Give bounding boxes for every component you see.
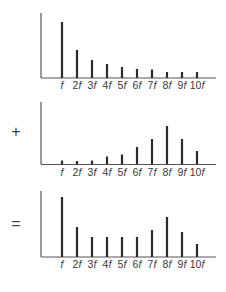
tick-label: 4f bbox=[103, 258, 113, 270]
tick-label: 10f bbox=[190, 258, 206, 270]
tick-label: 3f bbox=[88, 258, 98, 270]
spectrum-panel-1: f2f3f4f5f6f7f8f9f10f bbox=[41, 13, 216, 91]
tick-label: 5f bbox=[118, 79, 128, 91]
tick-label: 9f bbox=[178, 79, 188, 91]
tick-label: 9f bbox=[178, 258, 188, 270]
tick-label: 4f bbox=[103, 79, 113, 91]
tick-label: f bbox=[61, 258, 65, 270]
plus-sign: + bbox=[11, 123, 20, 140]
spectrum-panel-3: f2f3f4f5f6f7f8f9f10f= bbox=[11, 191, 216, 270]
tick-label: 7f bbox=[148, 79, 158, 91]
tick-label: 10f bbox=[190, 79, 206, 91]
tick-label: 5f bbox=[118, 258, 128, 270]
tick-label: f bbox=[61, 166, 65, 178]
tick-label: 6f bbox=[133, 79, 143, 91]
spectrum-panel-2: f2f3f4f5f6f7f8f9f10f+ bbox=[11, 102, 216, 178]
tick-label: 7f bbox=[148, 166, 158, 178]
tick-label: 7f bbox=[148, 258, 158, 270]
tick-label: 8f bbox=[163, 258, 173, 270]
tick-label: 6f bbox=[133, 258, 143, 270]
tick-label: 4f bbox=[103, 166, 113, 178]
tick-label: 5f bbox=[118, 166, 128, 178]
tick-label: 3f bbox=[88, 166, 98, 178]
tick-label: 2f bbox=[73, 79, 83, 91]
tick-label: 10f bbox=[190, 166, 206, 178]
tick-label: 3f bbox=[88, 79, 98, 91]
tick-label: 2f bbox=[73, 166, 83, 178]
tick-label: 6f bbox=[133, 166, 143, 178]
tick-label: 8f bbox=[163, 79, 173, 91]
tick-label: f bbox=[61, 79, 65, 91]
harmonic-spectrum-diagram: f2f3f4f5f6f7f8f9f10ff2f3f4f5f6f7f8f9f10f… bbox=[0, 0, 226, 292]
tick-label: 9f bbox=[178, 166, 188, 178]
tick-label: 8f bbox=[163, 166, 173, 178]
tick-label: 2f bbox=[73, 258, 83, 270]
equals-sign: = bbox=[11, 215, 20, 232]
